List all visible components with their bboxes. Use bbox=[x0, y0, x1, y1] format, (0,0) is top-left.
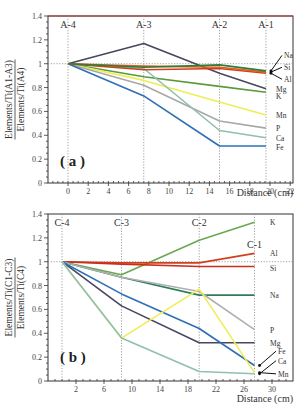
sample-label: A-4 bbox=[60, 19, 76, 30]
element-label-al: Al bbox=[284, 75, 292, 84]
element-label-p: P bbox=[270, 326, 274, 335]
y-tick-label: 1 bbox=[38, 258, 42, 267]
y-tick-label: 0.2 bbox=[32, 353, 42, 362]
arrow-head bbox=[258, 364, 261, 367]
element-label-k: K bbox=[270, 218, 276, 227]
series-ca bbox=[62, 262, 255, 374]
x-tick-label: 12 bbox=[185, 187, 193, 196]
y-tick-label: 1 bbox=[38, 60, 42, 69]
element-label-fe: Fe bbox=[276, 143, 284, 152]
x-tick-label: 6 bbox=[127, 187, 131, 196]
pointer-arrow bbox=[271, 73, 282, 79]
x-axis-label: Distance (cm) bbox=[237, 187, 293, 199]
x-tick-label: 4 bbox=[106, 187, 110, 196]
y-tick-label: 0.4 bbox=[32, 329, 42, 338]
pointer-arrow bbox=[260, 351, 277, 365]
element-label-na: Na bbox=[284, 51, 293, 60]
y-label-numerator: Elements/Ti(A1-A3) bbox=[4, 60, 15, 139]
y-tick-label: 0.8 bbox=[32, 84, 42, 93]
x-tick-label: 10 bbox=[128, 385, 136, 394]
panel-label: ( b ) bbox=[60, 349, 86, 366]
series-fe bbox=[62, 262, 255, 366]
series-mn bbox=[62, 262, 255, 373]
element-label-si: Si bbox=[270, 264, 276, 273]
arrow-head bbox=[258, 371, 261, 374]
element-label-na: Na bbox=[270, 291, 279, 300]
x-tick-label: 6 bbox=[102, 385, 106, 394]
figure: 00.20.40.60.811.21.40246810121416182022A… bbox=[0, 0, 296, 405]
y-tick-label: 0.2 bbox=[32, 155, 42, 164]
x-tick-label: 16 bbox=[226, 187, 234, 196]
chart-panel-b: 00.20.40.60.811.21.426101418222630C-4C-3… bbox=[4, 210, 293, 405]
x-axis-label: Distance (cm) bbox=[237, 393, 293, 405]
x-tick-label: 22 bbox=[212, 385, 220, 394]
series-ca bbox=[68, 64, 266, 138]
sample-label: C-4 bbox=[55, 217, 70, 228]
sample-label: A-3 bbox=[136, 19, 152, 30]
y-label-denominator: Elements/Ti(C4) bbox=[16, 266, 27, 330]
y-label-numerator: Elements/Ti(C1-C3) bbox=[4, 259, 15, 337]
y-tick-label: 0 bbox=[38, 377, 42, 386]
x-tick-label: 0 bbox=[66, 187, 70, 196]
y-tick-label: 0.6 bbox=[32, 107, 42, 116]
series-p bbox=[68, 64, 266, 128]
element-label-fe: Fe bbox=[278, 347, 286, 356]
element-label-ca: Ca bbox=[278, 357, 287, 366]
y-axis-label: Elements/Ti(A1-A3)Elements/Ti(A4) bbox=[4, 60, 27, 140]
y-tick-label: 0.6 bbox=[32, 305, 42, 314]
x-tick-label: 18 bbox=[184, 385, 192, 394]
y-label-denominator: Elements/Ti(A4) bbox=[16, 67, 27, 131]
pointer-arrow bbox=[260, 373, 277, 374]
series-mg bbox=[62, 262, 255, 343]
arrow-head bbox=[270, 72, 273, 75]
y-tick-label: 0.8 bbox=[32, 282, 42, 291]
element-label-si: Si bbox=[284, 63, 290, 72]
element-label-ca: Ca bbox=[276, 134, 285, 143]
element-label-k: K bbox=[276, 92, 282, 101]
y-axis-label: Elements/Ti(C1-C3)Elements/Ti(C4) bbox=[4, 258, 27, 338]
y-tick-label: 1.2 bbox=[32, 234, 42, 243]
sample-label: A-1 bbox=[258, 19, 274, 30]
x-tick-label: 14 bbox=[156, 385, 164, 394]
panel-label: ( a ) bbox=[60, 153, 85, 170]
x-tick-label: 8 bbox=[147, 187, 151, 196]
y-tick-label: 1.4 bbox=[32, 12, 42, 21]
element-label-al: Al bbox=[270, 249, 278, 258]
x-tick-label: 10 bbox=[165, 187, 173, 196]
sample-label: C-3 bbox=[114, 217, 129, 228]
element-label-p: P bbox=[276, 124, 280, 133]
x-tick-label: 14 bbox=[205, 187, 213, 196]
y-tick-label: 1.4 bbox=[32, 210, 42, 219]
element-label-mn: Mn bbox=[276, 111, 287, 120]
chart-panel-a: 00.20.40.60.811.21.40246810121416182022A… bbox=[4, 12, 294, 199]
sample-label: C-1 bbox=[247, 239, 262, 250]
x-tick-label: 2 bbox=[86, 187, 90, 196]
y-tick-label: 1.2 bbox=[32, 36, 42, 45]
x-tick-label: 2 bbox=[74, 385, 78, 394]
sample-label: C-2 bbox=[192, 217, 207, 228]
y-tick-label: 0 bbox=[38, 179, 42, 188]
element-label-mn: Mn bbox=[278, 370, 289, 379]
sample-label: A-2 bbox=[212, 19, 228, 30]
y-tick-label: 0.4 bbox=[32, 131, 42, 140]
